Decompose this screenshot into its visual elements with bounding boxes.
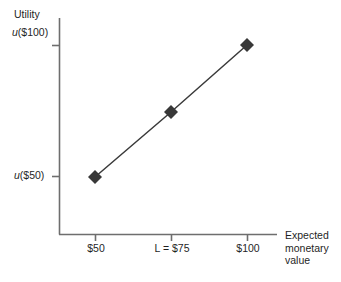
y-axis-title: Utility [14,9,40,21]
x-tick-label-100: $100 [236,243,259,255]
y-tick-label-u50: u($50) [14,170,44,182]
x-axis-title: Expected monetary value [285,229,341,267]
x-axis-title-line-2: monetary [285,242,341,255]
x-axis-title-line-3: value [285,254,341,267]
x-tick-label-75: L = $75 [155,243,190,255]
y-tick-label-u100: u($100) [12,27,48,39]
y-tick-label-u50-rest: ($50) [20,169,45,181]
x-axis-title-line-1: Expected [285,229,341,242]
x-tick-label-50: $50 [87,243,105,255]
y-tick-label-u100-rest: ($100) [18,26,48,38]
utility-chart-figure: Utility u($100) u($50) $50 L = $75 $100 … [0,0,341,282]
